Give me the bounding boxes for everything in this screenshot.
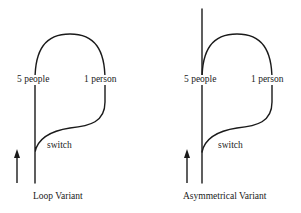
left-track-label: 5 people bbox=[17, 75, 49, 85]
arrowhead-icon bbox=[14, 149, 20, 158]
switch-label: switch bbox=[218, 141, 243, 151]
arrowhead-icon bbox=[184, 149, 190, 158]
diagram-caption: Asymmetrical Variant bbox=[183, 192, 266, 202]
asymmetrical-variant-track bbox=[202, 9, 272, 183]
switch-label: switch bbox=[47, 141, 72, 151]
trolley-diagrams bbox=[0, 0, 301, 213]
left-track-label: 5 people bbox=[184, 75, 216, 85]
right-track-label: 1 person bbox=[84, 75, 116, 85]
side-loop-path bbox=[202, 34, 272, 152]
loop-variant-track bbox=[35, 34, 105, 183]
loop-track-path bbox=[35, 34, 105, 183]
right-track-label: 1 person bbox=[251, 75, 283, 85]
loop-variant-arrow bbox=[14, 149, 20, 183]
asymmetrical-variant-arrow bbox=[184, 149, 190, 183]
diagram-caption: Loop Variant bbox=[33, 192, 83, 202]
